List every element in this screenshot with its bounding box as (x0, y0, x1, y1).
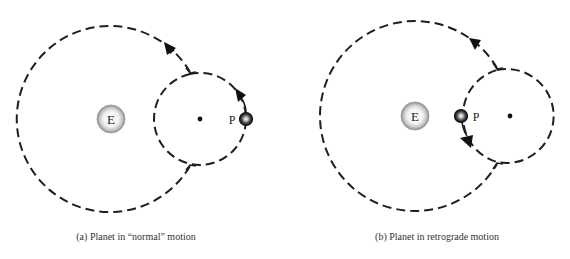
panel-b-retrograde-motion: E P (320, 21, 554, 211)
epicycle-diagram: E P E P (0, 0, 570, 259)
epicycle-center-dot (198, 117, 203, 122)
junction-tick (493, 63, 503, 69)
caption-panel-b: (b) Planet in retrograde motion (375, 231, 499, 242)
arrow-epicycle-icon (460, 135, 473, 148)
earth-label: E (107, 112, 115, 127)
earth-label: E (411, 109, 419, 124)
planet-sphere (240, 113, 253, 126)
junction-tick (186, 165, 196, 170)
planet-label: P (229, 113, 236, 127)
caption-panel-a: (a) Planet in “normal” motion (76, 231, 195, 242)
junction-tick (493, 163, 503, 169)
arrow-deferent-icon (469, 38, 481, 50)
junction-tick (186, 68, 196, 73)
planet-path-segment (242, 99, 246, 113)
panel-a-normal-motion: E P (17, 26, 253, 212)
arrow-epicycle-icon (235, 88, 246, 102)
planet-label: P (473, 110, 480, 124)
epicycle-center-dot (508, 114, 513, 119)
planet-sphere (455, 110, 468, 123)
